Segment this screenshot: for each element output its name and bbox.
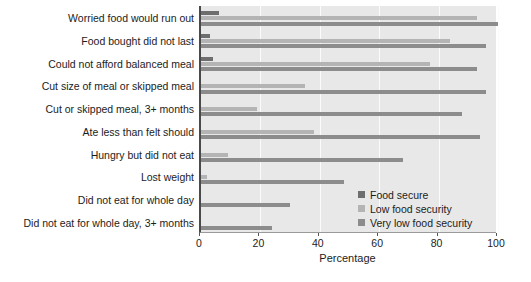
category-axis-labels: Worried food would run outFood bought di… bbox=[0, 6, 194, 233]
gridline bbox=[498, 6, 499, 232]
bar-group bbox=[201, 34, 496, 48]
x-axis-title: Percentage bbox=[199, 252, 496, 264]
bar bbox=[201, 203, 290, 207]
category-label: Hungry but did not eat bbox=[0, 149, 194, 161]
x-tick-label: 20 bbox=[253, 237, 265, 249]
legend-label: Very low food security bbox=[370, 217, 472, 229]
bar bbox=[201, 11, 219, 15]
bar bbox=[201, 226, 272, 230]
legend-swatch-icon bbox=[358, 191, 365, 198]
bar bbox=[201, 90, 486, 94]
category-label: Worried food would run out bbox=[0, 12, 194, 24]
x-tick-label: 80 bbox=[431, 237, 443, 249]
bar-group bbox=[201, 11, 496, 25]
x-axis-ticks: 020406080100 bbox=[199, 233, 496, 249]
category-label: Lost weight bbox=[0, 171, 194, 183]
legend-item[interactable]: Food secure bbox=[358, 188, 472, 201]
legend: Food secureLow food securityVery low foo… bbox=[358, 188, 472, 230]
bar bbox=[201, 175, 207, 179]
category-label: Could not afford balanced meal bbox=[0, 58, 194, 70]
bar-group bbox=[201, 125, 496, 139]
bar bbox=[201, 57, 213, 61]
x-tick-label: 100 bbox=[487, 237, 505, 249]
bar bbox=[201, 84, 305, 88]
x-tick-mark bbox=[496, 233, 497, 236]
legend-item[interactable]: Low food security bbox=[358, 202, 472, 215]
legend-swatch-icon bbox=[358, 219, 365, 226]
bar bbox=[201, 158, 403, 162]
legend-item[interactable]: Very low food security bbox=[358, 216, 472, 229]
legend-label: Low food security bbox=[370, 203, 452, 215]
x-tick-mark bbox=[199, 233, 200, 236]
legend-label: Food secure bbox=[370, 189, 428, 201]
x-tick-mark bbox=[258, 233, 259, 236]
x-tick-mark bbox=[437, 233, 438, 236]
bar bbox=[201, 16, 477, 20]
bar-chart: Worried food would run outFood bought di… bbox=[0, 0, 531, 282]
bar-group bbox=[201, 170, 496, 184]
x-tick-mark bbox=[318, 233, 319, 236]
bar bbox=[201, 153, 228, 157]
category-label: Did not eat for whole day bbox=[0, 194, 194, 206]
bar-group bbox=[201, 102, 496, 116]
category-label: Cut size of meal or skipped meal bbox=[0, 80, 194, 92]
category-label: Did not eat for whole day, 3+ months bbox=[0, 217, 194, 229]
category-label: Ate less than felt should bbox=[0, 126, 194, 138]
x-tick-label: 40 bbox=[312, 237, 324, 249]
bar bbox=[201, 22, 498, 26]
bar bbox=[201, 39, 450, 43]
category-label: Cut or skipped meal, 3+ months bbox=[0, 103, 194, 115]
category-label: Food bought did not last bbox=[0, 35, 194, 47]
bar bbox=[201, 135, 480, 139]
bar-group bbox=[201, 57, 496, 71]
bar bbox=[201, 34, 210, 38]
bar bbox=[201, 130, 314, 134]
bar bbox=[201, 112, 462, 116]
legend-swatch-icon bbox=[358, 205, 365, 212]
bar-group bbox=[201, 147, 496, 161]
bar bbox=[201, 107, 257, 111]
x-tick-label: 0 bbox=[196, 237, 202, 249]
x-tick-label: 60 bbox=[371, 237, 383, 249]
bar bbox=[201, 67, 477, 71]
x-tick-mark bbox=[377, 233, 378, 236]
bar-group bbox=[201, 79, 496, 93]
bar bbox=[201, 44, 486, 48]
bar bbox=[201, 180, 344, 184]
bar bbox=[201, 62, 430, 66]
